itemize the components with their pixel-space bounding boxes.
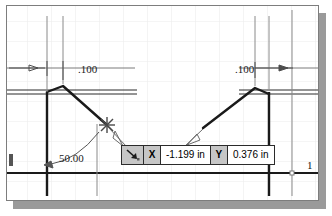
sketch-geometry[interactable] bbox=[7, 6, 318, 200]
coord-y-value-field[interactable]: 0.376 in bbox=[228, 146, 274, 164]
drawing-canvas-frame[interactable]: .100 .100 50.00 1 bbox=[6, 5, 319, 201]
cad-screenshot-root: .100 .100 50.00 1 X -1.199 in Y 0.376 in bbox=[0, 0, 332, 216]
dimension-label-right-offset[interactable]: .100 bbox=[235, 63, 254, 75]
diagonal-arrow-cursor-icon bbox=[122, 146, 144, 164]
dimension-label-left-offset[interactable]: .100 bbox=[78, 63, 97, 75]
angle-dimension-leader bbox=[107, 126, 127, 147]
base-node-marker bbox=[290, 171, 294, 175]
left-edge-tick bbox=[9, 154, 13, 166]
snap-point-marker bbox=[99, 117, 115, 133]
coord-y-label: Y bbox=[211, 146, 228, 164]
left-draft-profile bbox=[47, 86, 107, 125]
coord-x-value-field[interactable]: -1.199 in bbox=[161, 146, 211, 164]
coordinate-entry-tooltip[interactable]: X -1.199 in Y 0.376 in bbox=[121, 145, 275, 165]
right-angle-leader bbox=[185, 129, 203, 146]
left-offset-dimension bbox=[9, 61, 63, 80]
edge-marker-number: 1 bbox=[307, 159, 313, 171]
coord-x-label: X bbox=[144, 146, 161, 164]
right-offset-dimension bbox=[255, 62, 293, 78]
dimension-label-draft-angle[interactable]: 50.00 bbox=[59, 152, 84, 164]
